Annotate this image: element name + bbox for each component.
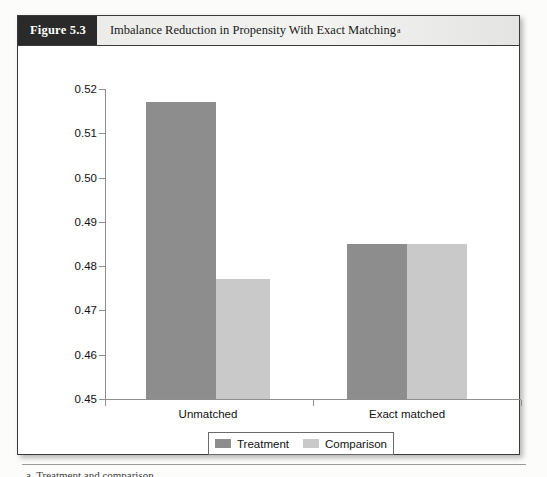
footnote-divider	[22, 464, 526, 465]
y-axis-tick-mark	[99, 89, 105, 90]
y-axis-tick-label: 0.52	[75, 83, 97, 95]
y-axis-tick-label: 0.49	[75, 216, 97, 228]
y-axis-tick-mark	[99, 266, 105, 267]
y-axis-tick-mark	[99, 178, 105, 179]
figure-title: Imbalance Reduction in Propensity With E…	[97, 16, 519, 45]
figure-container: Figure 5.3 Imbalance Reduction in Propen…	[17, 15, 520, 455]
bar-comparison-exact-matched	[407, 244, 467, 399]
y-axis-tick-label: 0.48	[75, 260, 97, 272]
bar-treatment-unmatched	[146, 102, 216, 399]
x-axis-tick-mark	[521, 400, 522, 406]
x-axis-category-label: Exact matched	[369, 408, 445, 420]
bar-comparison-unmatched	[216, 279, 270, 399]
y-axis-tick-label: 0.47	[75, 304, 97, 316]
chart-plot-region: 0.450.460.470.480.490.500.510.52 Unmatch…	[18, 47, 519, 454]
y-axis-tick-label: 0.51	[75, 127, 97, 139]
page-background: Figure 5.3 Imbalance Reduction in Propen…	[0, 0, 547, 477]
footnote-text: a. Treatment and comparison.	[26, 469, 156, 477]
figure-header-bar: Figure 5.3 Imbalance Reduction in Propen…	[18, 16, 519, 46]
y-axis-tick-label: 0.45	[75, 393, 97, 405]
y-axis-tick-labels: 0.450.460.470.480.490.500.510.52	[53, 47, 97, 454]
chart-legend: TreatmentComparison	[208, 432, 394, 455]
y-axis-tick-label: 0.50	[75, 172, 97, 184]
y-axis-tick-mark	[99, 355, 105, 356]
y-axis-tick-mark	[99, 310, 105, 311]
figure-number-label: Figure 5.3	[18, 16, 97, 45]
legend-swatch-treatment	[215, 439, 231, 448]
y-axis-tick-mark	[99, 133, 105, 134]
y-axis-line	[105, 89, 106, 400]
chart-axes: 0.450.460.470.480.490.500.510.52 Unmatch…	[18, 47, 519, 454]
legend-label: Comparison	[325, 438, 387, 450]
x-axis-category-label: Unmatched	[179, 408, 238, 420]
legend-swatch-comparison	[303, 439, 319, 448]
x-axis-tick-mark	[105, 400, 106, 406]
y-axis-tick-label: 0.46	[75, 349, 97, 361]
legend-item-treatment: Treatment	[215, 438, 289, 450]
figure-title-text: Imbalance Reduction in Propensity With E…	[110, 23, 396, 38]
x-axis-tick-mark	[313, 400, 314, 406]
bar-treatment-exact-matched	[347, 244, 407, 399]
legend-item-comparison: Comparison	[303, 438, 387, 450]
y-axis-tick-mark	[99, 222, 105, 223]
legend-label: Treatment	[237, 438, 289, 450]
